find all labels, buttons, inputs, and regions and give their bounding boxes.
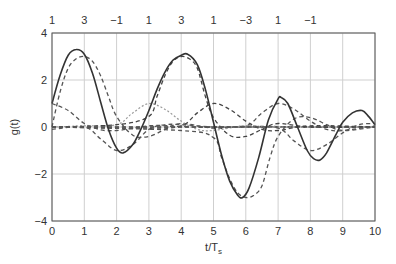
- y-tick-label: 4: [41, 27, 47, 39]
- top-symbol-label: −1: [304, 14, 317, 26]
- x-tick-label: 3: [146, 225, 152, 237]
- x-tick-label: 8: [307, 225, 313, 237]
- top-symbol-label: 3: [81, 14, 87, 26]
- x-axis-label-main: t/T: [205, 241, 218, 253]
- x-tick-label: 2: [114, 225, 120, 237]
- y-tick-label: 2: [41, 74, 47, 86]
- x-tick-label: 4: [178, 225, 184, 237]
- chart: 012345678910 420−2−4 13−1131−31−1 t/Ts g…: [0, 0, 396, 264]
- top-symbol-label: 1: [146, 14, 152, 26]
- x-tick-label: 9: [340, 225, 346, 237]
- y-tick-label: 0: [41, 121, 47, 133]
- top-axis-symbol-labels: 13−1131−31−1: [49, 14, 317, 26]
- y-axis-ticks: 420−2−4: [34, 27, 47, 227]
- x-axis-label: t/Ts: [205, 241, 222, 256]
- x-tick-label: 6: [243, 225, 249, 237]
- y-tick-label: −2: [34, 168, 47, 180]
- x-tick-label: 1: [81, 225, 87, 237]
- top-symbol-label: 1: [49, 14, 55, 26]
- top-symbol-label: −1: [110, 14, 123, 26]
- top-symbol-label: 1: [275, 14, 281, 26]
- x-axis-label-subscript: s: [218, 247, 222, 256]
- top-symbol-label: 1: [210, 14, 216, 26]
- x-axis-ticks: 012345678910: [49, 225, 381, 237]
- x-tick-label: 5: [210, 225, 216, 237]
- x-tick-label: 10: [369, 225, 381, 237]
- y-tick-label: −4: [34, 215, 47, 227]
- x-tick-label: 0: [49, 225, 55, 237]
- top-symbol-label: 3: [178, 14, 184, 26]
- x-tick-label: 7: [275, 225, 281, 237]
- top-symbol-label: −3: [240, 14, 253, 26]
- y-axis-label: g(t): [8, 119, 20, 136]
